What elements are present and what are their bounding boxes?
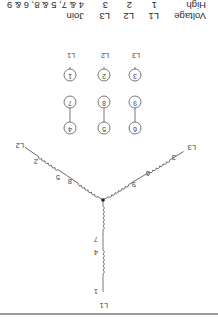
terminal-8: 8 <box>102 100 106 107</box>
terminal-3: 3 <box>133 73 137 80</box>
wye-label-5: 5 <box>56 173 60 182</box>
terminal-line-label-l1: L1 <box>67 52 75 59</box>
wye-label-7: 7 <box>94 235 98 244</box>
wye-neutral-point <box>101 198 105 202</box>
wye-label-l3: L3 <box>188 143 196 152</box>
wye-label-l1: L1 <box>100 301 108 310</box>
wye-label-8: 8 <box>68 177 72 186</box>
wye-label-l2: L2 <box>16 141 24 150</box>
terminal-2: 2 <box>102 73 106 80</box>
diagram-graphics <box>0 0 218 334</box>
wye-label-1: 1 <box>94 287 98 296</box>
terminal-line-label-l2: L2 <box>101 52 109 59</box>
terminal-9: 9 <box>133 100 137 107</box>
wye-connection-diagram: Voltage High L1 1 L2 2 L3 3 Join 4 & 7, … <box>0 0 218 334</box>
wye-label-9: 9 <box>132 180 136 189</box>
terminal-4: 4 <box>68 126 72 133</box>
wye-label-3: 3 <box>172 153 176 162</box>
wye-label-4: 4 <box>94 248 98 257</box>
wye-label-2: 2 <box>34 157 38 166</box>
terminal-5: 5 <box>102 126 106 133</box>
wye-label-6: 6 <box>146 169 150 178</box>
terminal-line-label-l3: L3 <box>132 52 140 59</box>
wye-windings <box>24 147 184 292</box>
terminal-6: 6 <box>133 126 137 133</box>
terminal-1: 1 <box>68 73 72 80</box>
terminal-7: 7 <box>68 100 72 107</box>
